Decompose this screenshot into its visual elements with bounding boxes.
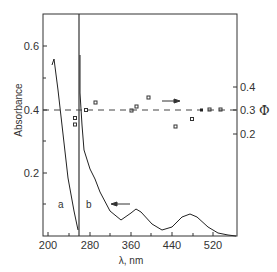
x-ticks	[48, 232, 213, 236]
y-tick-0-4: 0.4	[24, 104, 39, 116]
x-tick-520: 520	[204, 239, 222, 251]
left-y-ticks	[43, 46, 47, 204]
y2-tick-0-3: 0.3	[240, 104, 255, 116]
arrow-right-icon	[162, 99, 180, 103]
curve-a	[52, 59, 78, 230]
x-tick-440: 440	[163, 239, 181, 251]
y2-tick-0-4: 0.4	[240, 81, 255, 93]
phi-scatter	[74, 96, 223, 128]
x-axis-label: λ, nm	[119, 255, 143, 266]
curve-b-label: b	[86, 199, 92, 210]
y2-tick-0-2: 0.2	[240, 128, 255, 140]
curve-b	[80, 55, 236, 236]
x-tick-280: 280	[81, 239, 99, 251]
curve-a-label: a	[58, 199, 64, 210]
x-tick-200: 200	[39, 239, 57, 251]
chart: a b 0.6 0.4 0.2 0.4 0.3 0.2 Φ 200 280 36…	[0, 0, 277, 272]
right-y-ticks	[233, 87, 237, 134]
phi-point-filled	[200, 109, 203, 112]
x-tick-360: 360	[122, 239, 140, 251]
y-tick-0-6: 0.6	[24, 40, 39, 52]
y2-axis-label: Φ	[259, 103, 270, 118]
y-tick-0-2: 0.2	[24, 167, 39, 179]
arrow-left-icon	[111, 202, 130, 206]
y-axis-label: Absorbance	[13, 83, 24, 137]
